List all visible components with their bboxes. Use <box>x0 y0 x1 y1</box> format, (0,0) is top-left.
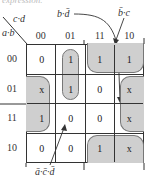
row-header-10: 10 <box>2 142 22 153</box>
cell-00-10: 1 <box>115 45 145 75</box>
cell-00-11: 1 <box>85 45 115 75</box>
cell-01-00: x <box>27 75 57 105</box>
karnaugh-map: 0 1 1 1 x 1 0 x 1 0 0 x 0 0 1 x <box>26 44 144 163</box>
cell-11-00: 1 <box>27 104 57 134</box>
col-header-00: 00 <box>26 30 56 41</box>
cell-01-10: x <box>115 75 145 105</box>
cell-10-01: 0 <box>56 134 86 164</box>
cell-10-11: 1 <box>85 134 115 164</box>
cell-11-01: 0 <box>56 104 86 134</box>
row-header-11: 11 <box>2 112 22 123</box>
cell-00-00: 0 <box>27 45 57 75</box>
row-header-01: 01 <box>2 83 22 94</box>
cell-01-01: 1 <box>56 75 86 105</box>
term-label-bbar-c: b̄·c <box>118 7 130 18</box>
cell-11-10: x <box>115 104 145 134</box>
term-label-abar-cbar-d: ā·c̄·d̄ <box>35 166 54 177</box>
cell-10-00: 0 <box>27 134 57 164</box>
cell-11-11: 0 <box>85 104 115 134</box>
cell-01-11: 0 <box>85 75 115 105</box>
col-header-10: 10 <box>115 30 145 41</box>
col-var-label: c·d <box>13 13 25 24</box>
col-header-11: 11 <box>85 30 115 41</box>
row-header-00: 00 <box>2 53 22 64</box>
cell-00-01: 1 <box>56 45 86 75</box>
col-header-01: 01 <box>56 30 86 41</box>
cell-10-10: x <box>115 134 145 164</box>
term-label-b-dbar: b·d̄ <box>57 8 70 19</box>
row-var-label: a·b <box>2 27 15 38</box>
